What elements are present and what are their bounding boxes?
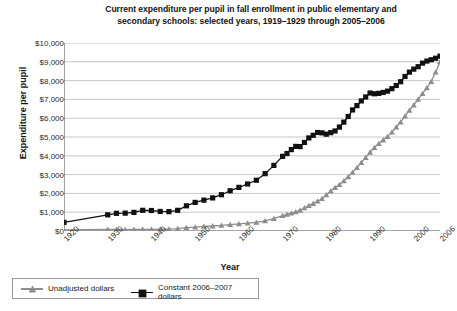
chart-svg: [64, 43, 440, 231]
x-axis-label: Year: [150, 262, 310, 272]
y-tick-label: $9,000: [12, 57, 64, 66]
x-tick-label: 2006: [438, 224, 457, 243]
y-tick-label: $3,000: [12, 170, 64, 179]
y-tick-label: $5,000: [12, 133, 64, 142]
legend-item-constant-dollars: Constant 2006–2007 dollars: [131, 283, 258, 301]
y-axis-tick-labels: $0$1,000$2,000$3,000$4,000$5,000$6,000$7…: [0, 0, 64, 311]
y-tick-label: $10,000: [12, 39, 64, 48]
y-tick-label: $7,000: [12, 95, 64, 104]
chart-title: Current expenditure per pupil in fall en…: [58, 4, 444, 27]
y-tick-label: $8,000: [12, 76, 64, 85]
legend-label-constant-dollars: Constant 2006–2007 dollars: [158, 283, 258, 301]
legend-marker-square-icon: [131, 287, 153, 298]
y-tick-label: $2,000: [12, 189, 64, 198]
y-tick-label: $0: [12, 227, 64, 236]
chart-title-line-2: secondary schools: selected years, 1919–…: [117, 16, 384, 26]
legend-label-unadjusted-dollars: Unadjusted dollars: [48, 284, 114, 293]
legend-marker-triangle-icon: [21, 283, 43, 294]
legend-item-unadjusted-dollars: Unadjusted dollars: [21, 283, 114, 294]
chart-legend: Unadjusted dollars Constant 2006–2007 do…: [12, 278, 259, 299]
plot-area: [64, 43, 440, 231]
y-tick-label: $6,000: [12, 114, 64, 123]
y-tick-label: $1,000: [12, 208, 64, 217]
chart-title-line-1: Current expenditure per pupil in fall en…: [105, 4, 396, 14]
y-tick-label: $4,000: [12, 151, 64, 160]
